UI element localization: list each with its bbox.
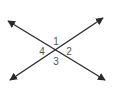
angle-label-2: 2 (66, 46, 72, 57)
angle-label-4: 4 (39, 46, 45, 57)
angle-label-1: 1 (53, 36, 59, 47)
angle-label-3: 3 (53, 56, 59, 67)
intersecting-lines-diagram: 1 2 3 4 (0, 0, 118, 89)
